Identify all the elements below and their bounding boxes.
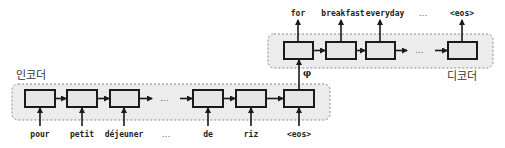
decoder-label: 디코더 — [447, 70, 477, 83]
input-token: de — [203, 130, 213, 139]
encoder-cell-5 — [193, 90, 223, 107]
output-token: <eos> — [450, 9, 474, 18]
output-token: for — [291, 9, 306, 18]
encoder-cell-7 — [284, 90, 314, 107]
encoder-cell-1 — [25, 90, 55, 107]
input-token: pour — [30, 130, 49, 139]
encoder-cell-3 — [110, 90, 139, 107]
decoder: 디코더 ... for breakfast everyday ... <eos> — [268, 8, 493, 83]
encoder-label: 인코더 — [16, 69, 46, 82]
input-token: <eos> — [287, 130, 311, 139]
decoder-cell-1 — [284, 42, 313, 59]
decoder-ellipsis: ... — [415, 45, 424, 55]
input-token: ... — [162, 129, 171, 139]
encoder: 인코더 ... pour petit déjeuner ... de riz <… — [12, 69, 330, 139]
input-token: déjeuner — [105, 129, 144, 139]
output-token: everyday — [366, 9, 405, 18]
input-token: petit — [70, 129, 94, 139]
context-vector-label: φ — [303, 68, 311, 78]
decoder-cell-4 — [448, 42, 477, 59]
input-token: riz — [244, 129, 259, 139]
encoder-ellipsis: ... — [160, 93, 169, 103]
decoder-cell-3 — [366, 42, 395, 59]
seq2seq-diagram: 인코더 ... pour petit déjeuner ... de riz <… — [0, 0, 505, 148]
output-token: breakfast — [321, 9, 365, 18]
decoder-cell-2 — [326, 42, 356, 59]
encoder-cell-6 — [236, 90, 266, 107]
output-token: ... — [419, 8, 428, 18]
encoder-region — [12, 84, 330, 120]
encoder-cell-2 — [67, 90, 97, 107]
